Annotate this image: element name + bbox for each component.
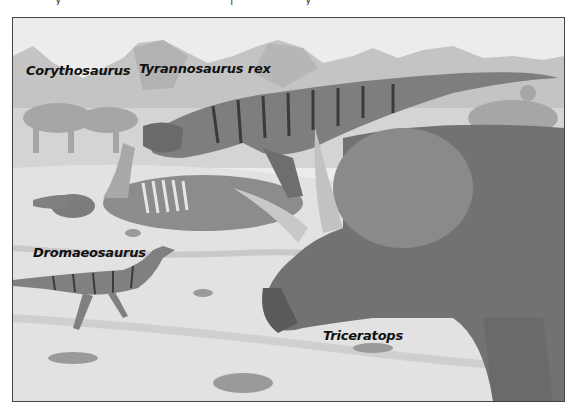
dinosaur-illustration: Corythosaurus Tyrannosaurus rex Dromaeos… xyxy=(12,17,565,402)
label-dromaeosaurus: Dromaeosaurus xyxy=(33,245,146,260)
label-corythosaurus: Corythosaurus xyxy=(26,63,130,78)
label-triceratops: Triceratops xyxy=(323,328,403,343)
triceratops-frill xyxy=(333,128,473,248)
label-tyrannosaurus: Tyrannosaurus rex xyxy=(139,61,271,76)
cropped-top-text: y | y xyxy=(0,0,577,5)
